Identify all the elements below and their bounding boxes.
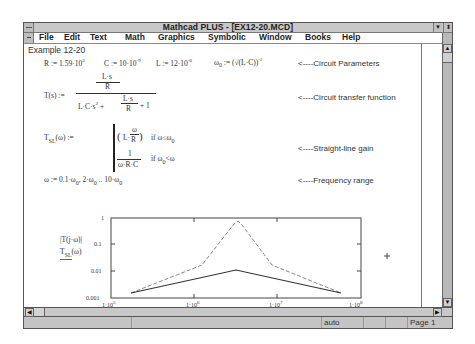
restore-button[interactable]: ⬍ <box>443 23 452 32</box>
horizontal-scroll-thumb[interactable] <box>34 308 45 316</box>
ytick-0.1: 0.1 <box>94 241 102 247</box>
document-system-menu-button[interactable] <box>24 33 34 43</box>
xtick-1e7: 1·107 <box>269 300 283 307</box>
down-arrow-icon: ▼ <box>435 24 441 30</box>
down-arrow-icon: ▼ <box>445 299 451 305</box>
window-title: Mathcad PLUS - [EX12-20.MCD] <box>24 22 432 32</box>
plot-area <box>24 44 442 307</box>
up-arrow-icon: ▲ <box>445 45 451 51</box>
ytick-0.001: 0.001 <box>86 295 100 301</box>
vertical-scrollbar[interactable]: ▲ ▼ <box>442 33 452 307</box>
menu-graphics[interactable]: Graphics <box>158 32 195 42</box>
mathcad-window: Mathcad PLUS - [EX12-20.MCD] ▼ ⬍ File Ed… <box>23 22 453 329</box>
xtick-1e5: 1·105 <box>102 300 116 307</box>
scroll-left-button[interactable]: ◀ <box>25 308 34 317</box>
status-bar: auto Page 1 <box>24 317 452 328</box>
status-message <box>131 317 321 328</box>
menu-math[interactable]: Math <box>125 32 145 42</box>
series-magnitude-dashed <box>131 221 341 293</box>
status-cell-empty <box>385 317 407 328</box>
scroll-up-button[interactable]: ▲ <box>443 44 452 53</box>
menu-symbolic[interactable]: Symbolic <box>208 32 246 42</box>
menu-bar: File Edit Text Math Graphics Symbolic Wi… <box>24 33 452 44</box>
ytick-0.01: 0.01 <box>91 268 102 274</box>
menu-window[interactable]: Window <box>259 32 292 42</box>
menu-books[interactable]: Books <box>305 32 331 42</box>
xtick-1e6: 1·106 <box>186 300 200 307</box>
worksheet[interactable]: Example 12-20 R := 1.59·103 C := 10·10-9… <box>24 44 442 307</box>
ytick-1: 1 <box>101 215 104 221</box>
vertical-scroll-thumb[interactable] <box>443 53 452 63</box>
status-cell-empty <box>363 317 385 328</box>
horizontal-scrollbar[interactable]: ◀ ▶ <box>24 307 452 317</box>
menu-help[interactable]: Help <box>342 32 360 42</box>
scroll-down-button[interactable]: ▼ <box>443 298 452 307</box>
status-calc-mode: auto <box>321 317 363 328</box>
scroll-right-button[interactable]: ▶ <box>433 308 442 317</box>
left-arrow-icon: ◀ <box>27 309 32 315</box>
up-down-arrows-icon: ⬍ <box>446 24 451 30</box>
xtick-1e8: 1·108 <box>349 300 363 307</box>
menu-text[interactable]: Text <box>90 32 107 42</box>
menu-file[interactable]: File <box>39 32 54 42</box>
minimize-button[interactable]: ▼ <box>433 23 442 32</box>
menu-edit[interactable]: Edit <box>64 32 80 42</box>
status-page: Page 1 <box>407 317 452 328</box>
series-straight-line <box>131 270 341 293</box>
right-arrow-icon: ▶ <box>435 309 440 315</box>
